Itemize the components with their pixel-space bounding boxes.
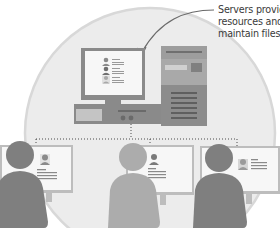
caption-line: maintain files. — [218, 28, 280, 40]
caption-line: Servers provide — [218, 4, 280, 16]
server-monitor — [81, 48, 145, 108]
server-desktop-unit — [74, 104, 162, 124]
client-right — [193, 144, 280, 228]
server-tower — [161, 46, 207, 126]
server-caption: Servers provide resources and maintain f… — [218, 4, 280, 40]
caption-line: resources and — [218, 16, 280, 28]
